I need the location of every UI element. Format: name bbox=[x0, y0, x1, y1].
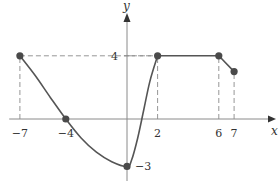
y-axis-arrow-icon bbox=[124, 13, 131, 22]
data-point bbox=[231, 68, 238, 75]
x-tick-label: 2 bbox=[154, 127, 161, 140]
data-point bbox=[62, 115, 69, 122]
tick-labels: −7−42674−3 bbox=[12, 50, 238, 174]
x-tick-label: 6 bbox=[215, 127, 222, 140]
x-axis-label: x bbox=[271, 124, 278, 138]
x-tick-label: −7 bbox=[12, 127, 28, 140]
y-axis-label: y bbox=[122, 0, 130, 13]
x-tick-label: 7 bbox=[231, 127, 238, 140]
data-point bbox=[16, 52, 23, 59]
data-point bbox=[154, 52, 161, 59]
y-tick-label: 4 bbox=[111, 50, 118, 63]
x-tick-label: −4 bbox=[58, 127, 74, 140]
data-point bbox=[123, 163, 130, 170]
y-tick-label: −3 bbox=[135, 160, 151, 173]
function-graph: x y −7−42674−3 bbox=[0, 0, 280, 181]
data-point bbox=[215, 52, 222, 59]
x-axis-arrow-icon bbox=[268, 116, 276, 123]
